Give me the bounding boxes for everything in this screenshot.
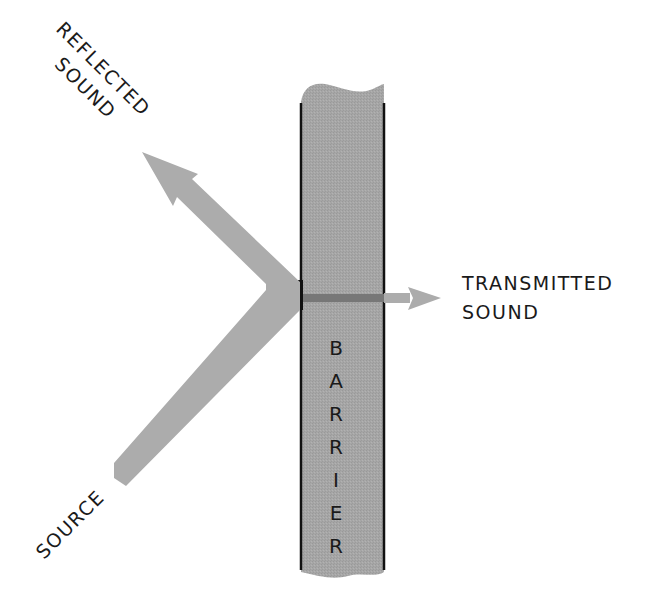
transmitted-arrow bbox=[384, 287, 441, 310]
barrier-letter: A bbox=[329, 369, 343, 393]
barrier-letter: I bbox=[333, 468, 339, 492]
transmitted-label-line2: SOUND bbox=[462, 301, 539, 323]
barrier-letter: E bbox=[330, 501, 343, 525]
transmitted-label-line1: TRANSMITTED bbox=[461, 272, 613, 294]
transmitted-arrow-shaft bbox=[384, 293, 410, 303]
transmission-band bbox=[301, 294, 384, 302]
incident-and-reflected-path bbox=[114, 152, 300, 486]
sound-barrier-diagram: REFLECTED SOUND TRANSMITTED SOUND SOURCE… bbox=[0, 0, 655, 591]
transmitted-arrowhead-icon bbox=[408, 287, 441, 310]
barrier-letter: R bbox=[329, 534, 343, 558]
barrier-letter: B bbox=[329, 336, 343, 360]
source-label: SOURCE bbox=[31, 485, 108, 562]
reflected-sound-label: REFLECTED SOUND bbox=[34, 17, 155, 138]
barrier-letter: R bbox=[329, 435, 343, 459]
reflection-arrow bbox=[114, 152, 300, 486]
barrier-letter: R bbox=[329, 402, 343, 426]
transmitted-sound-label: TRANSMITTED SOUND bbox=[461, 272, 613, 323]
barrier-fill bbox=[301, 84, 384, 578]
barrier-label: B A R R I E R bbox=[329, 336, 343, 558]
source-label-text: SOURCE bbox=[31, 485, 108, 562]
